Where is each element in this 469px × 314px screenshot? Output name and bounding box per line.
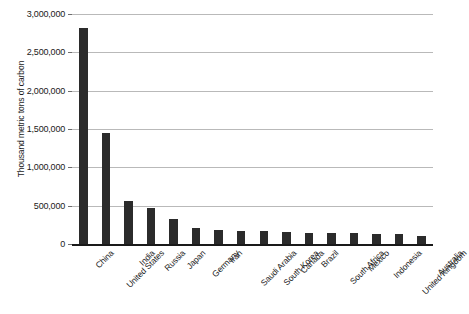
x-tick-label: Russia bbox=[162, 248, 187, 273]
gridline bbox=[72, 14, 433, 15]
y-tick-label: 1,500,000 bbox=[27, 124, 65, 134]
bar bbox=[282, 232, 291, 244]
bar bbox=[417, 236, 426, 244]
gridline bbox=[72, 167, 433, 168]
bar bbox=[260, 231, 269, 244]
bar bbox=[102, 133, 111, 244]
tick-mark bbox=[68, 52, 72, 53]
bar bbox=[237, 231, 246, 244]
x-tick-label: Indonesia bbox=[391, 248, 423, 280]
bar bbox=[305, 233, 314, 245]
bar bbox=[169, 219, 178, 244]
bar bbox=[147, 208, 156, 244]
bar bbox=[79, 28, 88, 244]
y-tick-label: 1,000,000 bbox=[27, 162, 65, 172]
y-tick-label: 2,500,000 bbox=[27, 47, 65, 57]
tick-mark bbox=[68, 91, 72, 92]
tick-mark bbox=[68, 14, 72, 15]
bar bbox=[395, 234, 404, 244]
bar bbox=[214, 230, 223, 244]
gridline bbox=[72, 129, 433, 130]
x-axis-line bbox=[72, 244, 433, 246]
bar bbox=[327, 233, 336, 244]
gridline bbox=[72, 52, 433, 53]
x-tick-label: Mexico bbox=[366, 248, 391, 273]
tick-mark bbox=[68, 167, 72, 168]
plot-area: 0500,0001,000,0001,500,0002,000,0002,500… bbox=[72, 14, 433, 244]
x-tick-label: Japan bbox=[184, 248, 207, 271]
bar bbox=[124, 201, 133, 244]
y-tick-label: 2,000,000 bbox=[27, 86, 65, 96]
bar bbox=[192, 228, 201, 244]
tick-mark bbox=[68, 206, 72, 207]
y-tick-label: 0 bbox=[60, 239, 65, 249]
tick-mark bbox=[68, 129, 72, 130]
y-axis-title: Thousand metric tons of carbon bbox=[14, 0, 28, 244]
gridline bbox=[72, 91, 433, 92]
bar bbox=[350, 233, 359, 244]
y-tick-label: 500,000 bbox=[34, 201, 65, 211]
x-tick-label: China bbox=[94, 248, 116, 270]
y-tick-label: 3,000,000 bbox=[27, 9, 65, 19]
bar bbox=[372, 234, 381, 244]
